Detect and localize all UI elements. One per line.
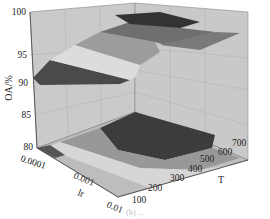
svg-text:300: 300 bbox=[170, 173, 185, 183]
svg-text:500: 500 bbox=[200, 154, 215, 164]
svg-text:600: 600 bbox=[218, 147, 233, 157]
z-ticks: 100 95 90 85 80 bbox=[12, 7, 34, 152]
svg-text:100: 100 bbox=[12, 7, 27, 17]
svg-text:200: 200 bbox=[148, 183, 163, 193]
t-axis-label: T bbox=[218, 174, 224, 185]
svg-text:85: 85 bbox=[22, 110, 32, 120]
svg-text:700: 700 bbox=[232, 138, 247, 148]
svg-text:80: 80 bbox=[24, 142, 34, 152]
svg-text:95: 95 bbox=[18, 50, 28, 60]
svg-text:100: 100 bbox=[132, 195, 147, 205]
figure-caption: (b) ... bbox=[0, 208, 270, 217]
lr-axis-label: lr bbox=[76, 187, 86, 200]
svg-text:0.0001: 0.0001 bbox=[19, 153, 47, 171]
svg-text:400: 400 bbox=[188, 164, 203, 174]
z-axis-label: OA/% bbox=[3, 75, 14, 101]
surface-chart: 100 95 90 85 80 OA/% 0.0001 0.001 0.01 l… bbox=[0, 0, 270, 219]
svg-text:90: 90 bbox=[19, 78, 29, 88]
